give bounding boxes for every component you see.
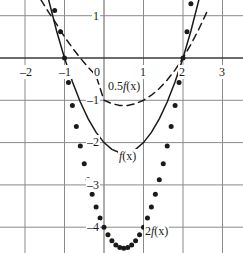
curve-point	[58, 29, 63, 34]
graph-figure: –2–101231–1–2–3–40.5f(x)f(x)2f(x)	[0, 0, 243, 253]
coordinate-plot	[0, 0, 243, 253]
curve-point	[74, 124, 79, 129]
curve-point	[133, 238, 138, 243]
y-axis-tick-label: –2	[86, 136, 100, 148]
curve-point	[169, 124, 174, 129]
curve-point	[188, 1, 193, 6]
curve-point	[62, 56, 67, 61]
label-half-f: 0.5f(x)	[107, 80, 141, 92]
curve-point	[82, 161, 87, 166]
x-axis-tick-label: 3	[218, 66, 226, 78]
curve-point	[181, 56, 186, 61]
label-f: f(x)	[118, 150, 137, 162]
curve-point	[94, 204, 99, 209]
y-axis-tick-label: 1	[92, 10, 100, 22]
curve-point	[153, 192, 158, 197]
curve-point	[109, 238, 114, 243]
y-axis-tick-label: –3	[86, 179, 100, 191]
curve-point	[145, 215, 150, 220]
x-axis-tick-label: –1	[58, 66, 72, 78]
curve-point	[157, 177, 162, 182]
label-two-f: 2f(x)	[144, 225, 169, 237]
curve-point	[137, 232, 142, 237]
curve-point	[184, 29, 189, 34]
curve-point	[173, 103, 178, 108]
y-axis-tick-label: –4	[86, 221, 100, 233]
curve-point	[52, 8, 57, 13]
curve-point	[161, 161, 166, 166]
curve-point	[129, 242, 134, 247]
x-axis-tick-label: 1	[139, 66, 147, 78]
curve-2f-x-	[52, 1, 193, 250]
curve-point	[66, 80, 71, 85]
y-axis-tick-label: –1	[86, 94, 100, 106]
curve-point	[78, 143, 83, 148]
curve-point	[102, 225, 107, 230]
curve-point	[105, 232, 110, 237]
x-axis-tick-label: 0	[93, 66, 101, 78]
curve-point	[70, 103, 75, 108]
curve-point	[165, 143, 170, 148]
grid-lines	[0, 0, 243, 253]
x-axis-tick-label: –2	[19, 66, 33, 78]
curve-point	[149, 204, 154, 209]
x-axis-tick-label: 2	[178, 66, 186, 78]
curve-point	[177, 80, 182, 85]
curve-point	[90, 192, 95, 197]
